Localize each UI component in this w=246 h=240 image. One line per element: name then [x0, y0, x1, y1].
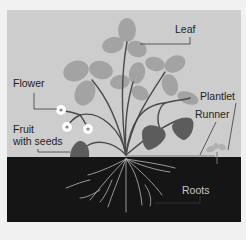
flower-leader: [34, 93, 57, 109]
fruit-leader: [38, 149, 70, 152]
label-runner: Runner: [195, 109, 229, 120]
fruit-center: [142, 125, 166, 150]
flower-1: [56, 105, 66, 115]
flower-3: [83, 124, 93, 134]
label-leaf: Leaf: [175, 24, 195, 35]
label-fruit-line1: Fruit: [13, 124, 34, 135]
label-roots: Roots: [182, 185, 209, 196]
label-flower: Flower: [13, 78, 45, 89]
leaf-cluster-right: [144, 52, 189, 98]
flower-2: [62, 122, 72, 132]
leaf-leader: [140, 37, 190, 44]
label-plantlet: Plantlet: [200, 91, 235, 102]
fruit-left: [70, 141, 89, 157]
label-fruit-line2: with seeds: [13, 136, 63, 147]
flowers: [56, 105, 93, 134]
leaf-cluster-middle: [109, 60, 151, 103]
